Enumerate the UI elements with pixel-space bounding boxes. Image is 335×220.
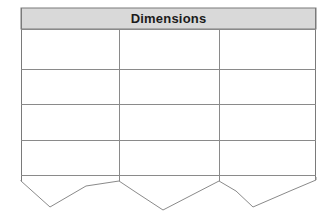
table-cell[interactable] — [219, 140, 316, 175]
torn-edge-fill — [21, 175, 316, 210]
table-figure: Dimensions — [0, 0, 335, 220]
table-cell[interactable] — [219, 104, 316, 140]
table-cell[interactable] — [21, 104, 119, 140]
table-cell[interactable] — [119, 140, 219, 175]
table-cell[interactable] — [219, 69, 316, 104]
table-cell[interactable] — [119, 69, 219, 104]
table-cell[interactable] — [21, 69, 119, 104]
table-cell[interactable] — [119, 29, 219, 69]
table-cell[interactable] — [219, 29, 316, 69]
table-cell[interactable] — [21, 140, 119, 175]
table-cell[interactable] — [119, 104, 219, 140]
table-title: Dimensions — [21, 8, 316, 29]
table-cell[interactable] — [21, 29, 119, 69]
